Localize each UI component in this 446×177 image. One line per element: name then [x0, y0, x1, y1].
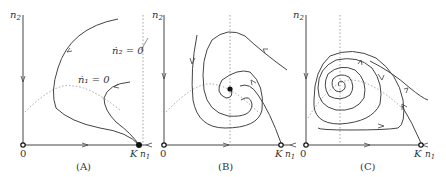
left-arrow-icon — [146, 143, 152, 147]
origin-point — [21, 143, 25, 147]
k-label: K — [129, 148, 138, 159]
trajectory — [203, 32, 287, 116]
y-axis-label: n2 — [152, 9, 163, 22]
arrow-icon — [251, 80, 256, 85]
trajectory — [104, 82, 139, 145]
panel-caption: (C) — [360, 161, 376, 172]
equilibrium-k — [419, 143, 423, 147]
trajectory — [192, 35, 262, 128]
y-axis-label: n2 — [293, 9, 304, 22]
panel-a: n2 ṅ₂ = 0 ṅ₁ = 0 0 K n1 (A) — [10, 9, 152, 172]
left-arrow-icon — [290, 143, 296, 147]
k-label: K — [413, 148, 422, 159]
nullcline-n1 — [308, 80, 402, 118]
x-axis-label: n1 — [425, 149, 435, 161]
panel-caption: (B) — [218, 161, 233, 172]
y-axis-label: n2 — [10, 9, 21, 22]
arrow-icon — [378, 124, 384, 128]
panel-b: n2 0 K n1 (B) — [152, 9, 296, 172]
origin-label: 0 — [20, 148, 26, 159]
arrow-icon — [378, 74, 384, 80]
x-axis-label: n1 — [140, 149, 150, 161]
nullcline-n2-label: ṅ₂ = 0 — [112, 45, 144, 56]
equilibrium-k — [279, 143, 283, 147]
nullcline-n1-label: ṅ₁ = 0 — [78, 74, 110, 85]
x-axis-label: n1 — [285, 149, 295, 161]
origin-label: 0 — [160, 148, 166, 159]
interior-equilibrium — [227, 86, 232, 91]
panel-caption: (A) — [76, 161, 91, 172]
origin-point — [162, 143, 166, 147]
origin-label: 0 — [300, 148, 306, 159]
arrow-icon — [404, 88, 408, 93]
phase-portrait-figure: n2 ṅ₂ = 0 ṅ₁ = 0 0 K n1 (A) n2 0 K n1 (B… — [0, 0, 446, 177]
k-label: K — [274, 148, 283, 159]
arrow-icon — [190, 58, 195, 64]
panel-c: n2 0 K n1 (C) — [293, 9, 435, 172]
trajectory — [402, 106, 421, 143]
arrow-icon — [358, 60, 362, 65]
origin-point — [304, 143, 308, 147]
